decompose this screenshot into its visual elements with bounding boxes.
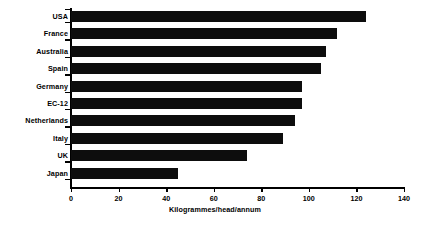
category-label: Australia xyxy=(36,46,68,57)
category-label: Germany xyxy=(36,81,68,92)
y-axis-tick xyxy=(65,179,71,180)
x-axis-tick-label: 20 xyxy=(115,194,123,203)
bar-fill xyxy=(71,133,283,144)
category-label: Japan xyxy=(47,168,68,179)
bar-chart: USAFranceAustraliaSpainGermanyEC-12Nethe… xyxy=(0,0,430,225)
category-label: France xyxy=(44,28,68,39)
category-label: Italy xyxy=(53,133,68,144)
bar-fill xyxy=(71,168,178,179)
x-axis-tick-label: 140 xyxy=(398,194,410,203)
category-label: EC-12 xyxy=(47,98,68,109)
x-axis-tick-label: 0 xyxy=(69,194,73,203)
bar-fill xyxy=(71,150,247,161)
x-axis-tick xyxy=(119,187,120,192)
bar xyxy=(71,115,295,126)
x-axis-tick-label: 80 xyxy=(257,194,265,203)
bar-fill xyxy=(71,98,302,109)
bar-fill xyxy=(71,28,337,39)
y-axis-tick xyxy=(65,144,71,145)
bar xyxy=(71,150,247,161)
y-axis-tick xyxy=(65,126,71,127)
bar xyxy=(71,98,302,109)
y-axis-tick xyxy=(65,22,71,23)
x-axis-tick xyxy=(261,187,262,192)
x-axis-tick xyxy=(404,187,405,192)
category-label: USA xyxy=(53,11,68,22)
y-axis-tick xyxy=(65,161,71,162)
x-axis-tick xyxy=(71,187,72,192)
bar xyxy=(71,46,326,57)
x-axis-tick xyxy=(356,187,357,192)
x-axis-tick xyxy=(214,187,215,192)
bar xyxy=(71,133,283,144)
bar-fill xyxy=(71,11,366,22)
x-axis-tick-label: 120 xyxy=(350,194,362,203)
bar xyxy=(71,168,178,179)
bar xyxy=(71,81,302,92)
x-axis-tick xyxy=(309,187,310,192)
bar-fill xyxy=(71,115,295,126)
bar xyxy=(71,28,337,39)
bar xyxy=(71,63,321,74)
y-axis-tick xyxy=(65,9,71,10)
category-label: Netherlands xyxy=(25,115,68,126)
bar-fill xyxy=(71,81,302,92)
y-axis-tick xyxy=(65,74,71,75)
x-axis-title: Kilogrammes/head/annum xyxy=(0,205,430,214)
x-axis-tick xyxy=(166,187,167,192)
bar xyxy=(71,11,366,22)
y-axis-tick xyxy=(65,57,71,58)
category-label: UK xyxy=(57,150,68,161)
y-axis-tick xyxy=(65,92,71,93)
x-axis-tick-label: 100 xyxy=(303,194,315,203)
category-label: Spain xyxy=(48,63,68,74)
y-axis-tick xyxy=(65,109,71,110)
x-axis-tick-label: 40 xyxy=(162,194,170,203)
bar-fill xyxy=(71,46,326,57)
x-axis-tick-label: 60 xyxy=(210,194,218,203)
y-axis-tick xyxy=(65,39,71,40)
bar-fill xyxy=(71,63,321,74)
